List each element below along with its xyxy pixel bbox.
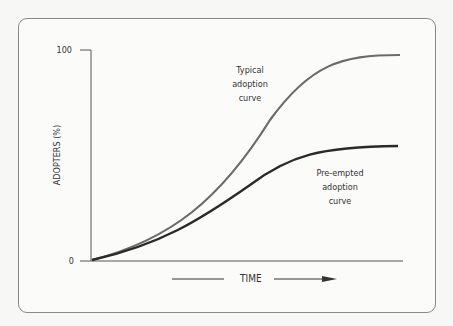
y-tick-label-0: 0 <box>69 256 74 266</box>
arrow-right-icon <box>322 276 337 282</box>
svg-text:Typical: Typical <box>235 65 263 75</box>
svg-text:adoption: adoption <box>232 79 268 89</box>
y-axis-label: ADOPTERS (%) <box>52 125 62 185</box>
typical-curve-label: Typical adoption curve <box>232 65 268 103</box>
preempted-curve-label: Pre-empted adoption curve <box>316 168 363 206</box>
svg-text:Pre-empted: Pre-empted <box>316 168 363 178</box>
svg-text:adoption: adoption <box>322 182 358 192</box>
y-tick-label-100: 100 <box>57 45 72 55</box>
svg-text:curve: curve <box>329 196 352 206</box>
adoption-chart: 100 0 ADOPTERS (%) Typical adoption curv… <box>0 0 453 326</box>
preempted-adoption-curve <box>92 146 398 260</box>
svg-text:curve: curve <box>239 93 262 103</box>
x-axis-label: TIME <box>239 273 262 284</box>
